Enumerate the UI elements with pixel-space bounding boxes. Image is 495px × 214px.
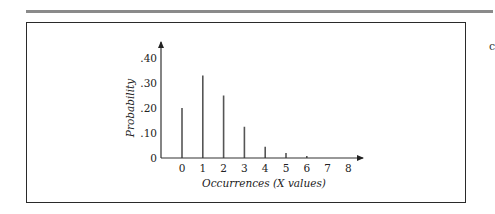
x-axis-title: Occurrences (X values) — [202, 177, 326, 189]
x-tick-label: 1 — [199, 162, 206, 174]
x-tick-label: 7 — [324, 162, 331, 174]
y-tick-label: .40 — [140, 52, 157, 64]
x-tick-label: 4 — [262, 162, 269, 174]
x-tick-label: 0 — [179, 162, 186, 174]
x-tick-label: 3 — [241, 162, 248, 174]
y-axis-ticks: 0.10.20.30.40 — [140, 52, 157, 164]
x-tick-label: 6 — [303, 162, 310, 174]
y-tick-label: .10 — [140, 127, 157, 139]
x-axis-ticks: 012345678 — [179, 162, 352, 174]
x-tick-label: 5 — [283, 162, 290, 174]
y-tick-label: .20 — [140, 102, 157, 114]
x-tick-label: 8 — [345, 162, 352, 174]
probability-stems — [182, 76, 307, 159]
y-tick-label: 0 — [150, 152, 157, 164]
y-axis-title: Probability — [124, 78, 136, 138]
x-tick-label: 2 — [220, 162, 227, 174]
y-tick-label: .30 — [140, 77, 157, 89]
